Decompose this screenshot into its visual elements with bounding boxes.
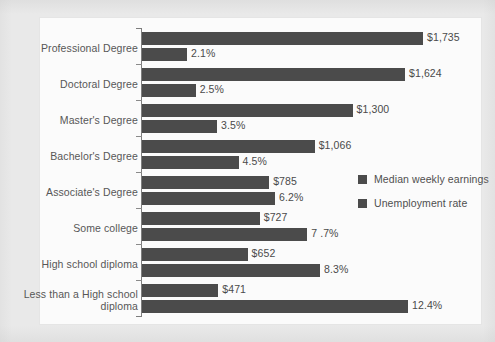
bar-unemployment-rate: [142, 48, 187, 61]
legend-item: Unemployment rate: [358, 194, 489, 212]
chart-row: High school diploma$6528.3%: [40, 246, 481, 282]
bar-group: $1,7352.1%: [142, 30, 481, 66]
bar-median-weekly-earnings: [142, 32, 423, 45]
bar-unemployment-rate: [142, 228, 307, 241]
bar-group: $1,3003.5%: [142, 102, 481, 138]
bar-value-label-unemployment: 3.5%: [221, 119, 245, 132]
bar-group: $47112.4%: [142, 282, 481, 318]
axis-tick: [136, 172, 142, 173]
axis-tick-end: [136, 316, 142, 317]
bar-unemployment-rate: [142, 264, 320, 277]
legend-swatch-icon: [358, 175, 367, 184]
legend-label: Median weekly earnings: [374, 173, 489, 185]
bar-value-label-earnings: $1,066: [319, 139, 352, 152]
bar-median-weekly-earnings: [142, 212, 260, 225]
category-label: Some college: [0, 210, 138, 246]
legend-swatch-icon: [358, 199, 367, 208]
chart-row: Doctoral Degree$1,6242.5%: [40, 66, 481, 102]
bar-value-label-earnings: $652: [252, 247, 276, 260]
bar-group: $1,0664.5%: [142, 138, 481, 174]
category-label: Bachelor's Degree: [0, 138, 138, 174]
chart-row: Bachelor's Degree$1,0664.5%: [40, 138, 481, 174]
bar-value-label-unemployment: 12.4%: [412, 299, 442, 312]
bar-value-label-unemployment: 7 .7%: [311, 227, 338, 240]
bar-group: $1,6242.5%: [142, 66, 481, 102]
bar-value-label-unemployment: 6.2%: [279, 191, 303, 204]
bar-median-weekly-earnings: [142, 140, 315, 153]
axis-tick: [136, 280, 142, 281]
legend-label: Unemployment rate: [374, 197, 467, 209]
axis-tick: [136, 64, 142, 65]
chart-plot-area: Professional Degree$1,7352.1%Doctoral De…: [40, 18, 481, 324]
bar-value-label-earnings: $1,300: [357, 103, 390, 116]
chart-row: Professional Degree$1,7352.1%: [40, 30, 481, 66]
bar-median-weekly-earnings: [142, 104, 353, 117]
bar-median-weekly-earnings: [142, 248, 248, 261]
category-label: Professional Degree: [0, 30, 138, 66]
bar-median-weekly-earnings: [142, 176, 269, 189]
bar-value-label-unemployment: 2.1%: [191, 47, 215, 60]
chart-row: Master's Degree$1,3003.5%: [40, 102, 481, 138]
bar-unemployment-rate: [142, 84, 196, 97]
axis-tick: [136, 244, 142, 245]
axis-tick: [136, 136, 142, 137]
legend-item: Median weekly earnings: [358, 170, 489, 188]
chart-legend: Median weekly earningsUnemployment rate: [358, 170, 489, 218]
category-label: Doctoral Degree: [0, 66, 138, 102]
bar-median-weekly-earnings: [142, 284, 218, 297]
bar-unemployment-rate: [142, 300, 408, 313]
chart-row: Less than a High school diploma$47112.4%: [40, 282, 481, 318]
category-label: Master's Degree: [0, 102, 138, 138]
bar-value-label-unemployment: 8.3%: [324, 263, 348, 276]
category-label: High school diploma: [0, 246, 138, 282]
bar-value-label-earnings: $1,735: [427, 31, 460, 44]
bar-unemployment-rate: [142, 156, 239, 169]
bar-unemployment-rate: [142, 120, 217, 133]
category-label: Less than a High school diploma: [0, 282, 138, 318]
axis-tick: [136, 28, 142, 29]
axis-tick: [136, 208, 142, 209]
bar-value-label-earnings: $1,624: [409, 67, 442, 80]
axis-tick: [136, 100, 142, 101]
bar-value-label-unemployment: 2.5%: [200, 83, 224, 96]
bar-value-label-unemployment: 4.5%: [243, 155, 267, 168]
bar-value-label-earnings: $785: [273, 175, 297, 188]
chart-screenshot: Professional Degree$1,7352.1%Doctoral De…: [0, 0, 495, 342]
bar-value-label-earnings: $727: [264, 211, 288, 224]
category-label: Associate's Degree: [0, 174, 138, 210]
bar-group: $6528.3%: [142, 246, 481, 282]
bar-unemployment-rate: [142, 192, 275, 205]
bar-value-label-earnings: $471: [222, 283, 246, 296]
bar-median-weekly-earnings: [142, 68, 405, 81]
